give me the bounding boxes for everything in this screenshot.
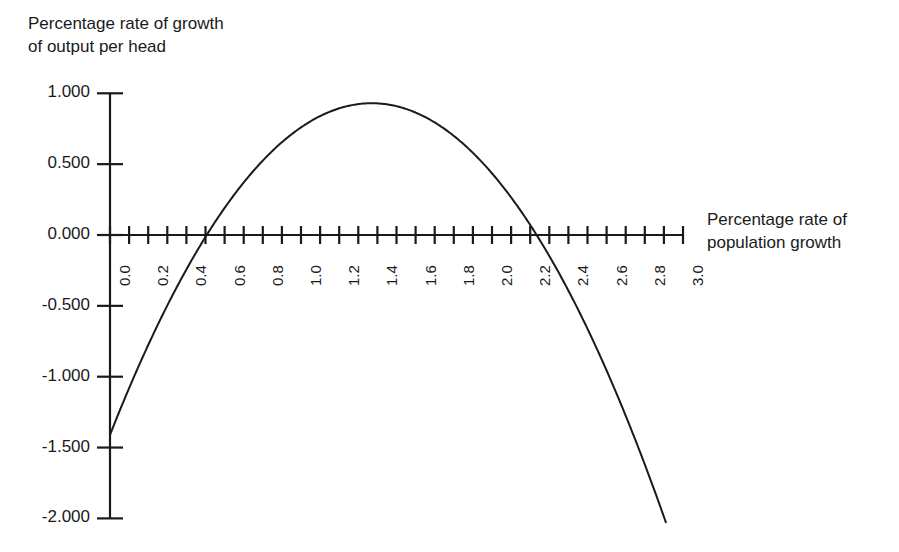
x-tick-label: 1.6: [422, 265, 439, 286]
data-curve-layer: [110, 103, 666, 522]
x-tick-label: 2.0: [498, 265, 515, 286]
x-tick-label: 3.0: [689, 265, 706, 286]
y-tick-label: -2.000: [12, 507, 90, 527]
x-tick-label: 0.6: [231, 265, 248, 286]
x-tick-label: 2.2: [536, 265, 553, 286]
x-tick-label: 1.2: [345, 265, 362, 286]
x-tick-label: 0.0: [116, 265, 133, 286]
x-tick-label: 2.8: [651, 265, 668, 286]
x-tick-label: 0.4: [192, 265, 209, 286]
plot-area: [0, 0, 899, 552]
x-tick-label: 1.4: [383, 265, 400, 286]
x-tick-label: 0.2: [154, 265, 171, 286]
y-tick-label: 1.000: [12, 82, 90, 102]
x-tick-label: 2.6: [613, 265, 630, 286]
y-tick-label: -0.500: [12, 295, 90, 315]
axis-layer: [97, 93, 683, 518]
x-tick-label: 2.4: [574, 265, 591, 286]
chart-figure: Percentage rate of growth of output per …: [0, 0, 899, 552]
y-tick-label: -1.000: [12, 366, 90, 386]
x-tick-label: 1.0: [307, 265, 324, 286]
y-tick-label: 0.500: [12, 153, 90, 173]
x-tick-label: 0.8: [269, 265, 286, 286]
y-tick-label: 0.000: [12, 224, 90, 244]
data-curve: [110, 103, 666, 522]
x-tick-label: 1.8: [460, 265, 477, 286]
y-tick-label: -1.500: [12, 437, 90, 457]
